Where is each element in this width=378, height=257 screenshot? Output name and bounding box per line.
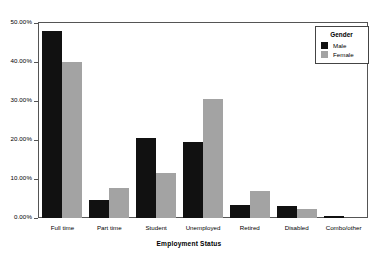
x-axis-title: Employment Status xyxy=(0,240,378,247)
bar-group xyxy=(183,23,223,218)
y-axis-tick-label: 30.00% xyxy=(10,96,32,103)
bar-group xyxy=(230,23,270,218)
bar-chart: 0.00%10.00%20.00%30.00%40.00%50.00% Full… xyxy=(0,0,378,257)
bar-female xyxy=(297,209,317,218)
y-axis-tick-label: 50.00% xyxy=(10,18,32,25)
bar-female xyxy=(62,62,82,218)
y-axis: 0.00%10.00%20.00%30.00%40.00%50.00% xyxy=(0,0,38,257)
legend-title: Gender xyxy=(321,31,362,38)
y-axis-tick-label: 10.00% xyxy=(10,174,32,181)
bar-male xyxy=(324,216,344,218)
x-axis-tick-label: Student xyxy=(145,224,166,231)
bar-group xyxy=(277,23,317,218)
y-axis-tick-label: 0.00% xyxy=(14,213,32,220)
bar-male xyxy=(230,205,250,218)
legend-label: Female xyxy=(333,51,354,58)
x-axis-tick-label: Retired xyxy=(240,224,260,231)
bar-male xyxy=(136,138,156,218)
x-axis: Full timePart timeStudentUnemployedRetir… xyxy=(39,219,367,239)
legend-entry: Male xyxy=(321,42,362,49)
legend-entry: Female xyxy=(321,51,362,58)
bar-male xyxy=(277,206,297,218)
bar-group xyxy=(136,23,176,218)
y-axis-tick-label: 40.00% xyxy=(10,57,32,64)
bar-group xyxy=(89,23,129,218)
y-axis-tick-label: 20.00% xyxy=(10,135,32,142)
bar-group xyxy=(42,23,82,218)
legend-swatch-icon xyxy=(321,42,328,49)
bar-male xyxy=(89,200,109,218)
legend: Gender MaleFemale xyxy=(315,26,369,64)
legend-entries: MaleFemale xyxy=(321,42,362,58)
x-axis-tick-label: Disabled xyxy=(285,224,309,231)
bar-male xyxy=(42,31,62,218)
x-axis-tick-label: Unemployed xyxy=(186,224,221,231)
bar-female xyxy=(203,99,223,218)
bar-female xyxy=(109,188,129,218)
x-axis-tick-label: Part time xyxy=(97,224,122,231)
y-axis-tick-mark xyxy=(34,218,38,219)
x-axis-tick-label: Full time xyxy=(51,224,74,231)
bar-female xyxy=(250,191,270,218)
legend-label: Male xyxy=(333,42,346,49)
x-axis-tick-label: Combo/other xyxy=(326,224,362,231)
bar-male xyxy=(183,142,203,218)
bar-female xyxy=(156,173,176,218)
legend-swatch-icon xyxy=(321,51,328,58)
